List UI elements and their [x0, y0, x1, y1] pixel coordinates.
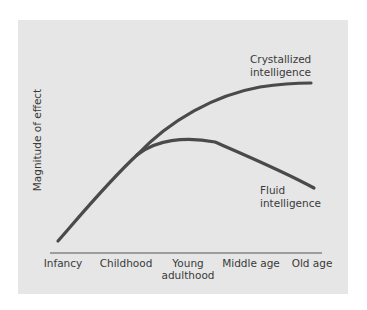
- x-tick-childhood: Childhood: [100, 257, 153, 269]
- x-tick-infancy: Infancy: [44, 257, 83, 269]
- shared-growth-line: [58, 155, 137, 241]
- y-axis-label: Magnitude of effect: [31, 89, 43, 191]
- x-tick-middle-age: Middle age: [222, 257, 280, 269]
- x-tick-adulthood: adulthood: [162, 269, 215, 281]
- crystallized-label-line2: intelligence: [250, 66, 311, 78]
- fluid-intelligence-line: [137, 139, 314, 188]
- x-tick-young: Young: [172, 257, 203, 269]
- crystallized-label-line1: Crystallized: [250, 53, 311, 65]
- fluid-label-line1: Fluid: [260, 184, 285, 196]
- fluid-label-line2: intelligence: [260, 197, 321, 209]
- x-tick-old-age: Old age: [292, 257, 333, 269]
